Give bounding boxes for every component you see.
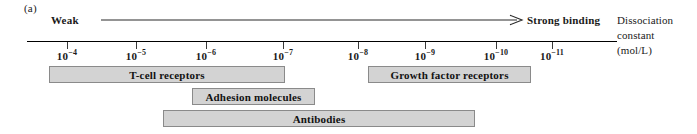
axis-tick-label: 10−11: [540, 50, 564, 62]
panel-label: (a): [24, 2, 37, 14]
axis-tick-label: 10−9: [415, 50, 435, 62]
range-bar-label: Growth factor receptors: [390, 69, 508, 81]
axis-caption-line-1: Dissociation: [617, 13, 673, 28]
axis-tick-label: 10−6: [196, 50, 216, 62]
right-arrow-icon: [101, 13, 527, 27]
axis-tick-label: 10−8: [348, 50, 368, 62]
range-bar-label: Adhesion molecules: [205, 91, 301, 103]
axis-caption-line-2: constant: [617, 28, 673, 43]
dissociation-constant-figure: (a) Weak Strong binding 10−410−510−610−7…: [0, 0, 697, 134]
axis-tick-label: 10−10: [484, 50, 509, 62]
range-bar-label: Antibodies: [293, 113, 346, 125]
caption-leader-line: [594, 41, 617, 42]
axis-caption-line-3: (mol/L): [617, 43, 673, 58]
axis-tick-label: 10−7: [273, 50, 293, 62]
strong-binding-label: Strong binding: [527, 14, 600, 26]
range-bar-label: T-cell receptors: [129, 69, 205, 81]
axis-tick-label: 10−5: [126, 50, 146, 62]
range-bar: Growth factor receptors: [368, 66, 531, 83]
weak-binding-label: Weak: [51, 14, 79, 26]
axis-tick-label: 10−4: [57, 50, 77, 62]
scale-axis-line: [27, 41, 613, 42]
range-bar: Antibodies: [163, 110, 475, 127]
range-bar: Adhesion molecules: [192, 88, 315, 105]
range-bar: T-cell receptors: [49, 66, 285, 83]
axis-caption: Dissociation constant (mol/L): [617, 13, 673, 58]
